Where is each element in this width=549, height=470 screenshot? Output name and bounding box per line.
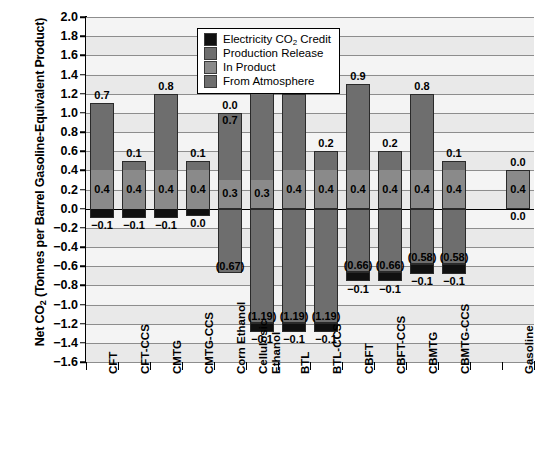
production-release-label: 0.1 <box>126 147 141 159</box>
y-tick-label: 0.4 <box>8 163 78 177</box>
electricity-credit-label: 0.0 <box>510 210 525 222</box>
y-tick-label: 2.0 <box>8 10 78 24</box>
y-tick-label: 0.0 <box>8 202 78 216</box>
legend: Electricity CO2 CreditProduction Release… <box>197 28 340 94</box>
bar-cft[interactable] <box>90 103 114 218</box>
production-release-label: 0.8 <box>414 80 429 92</box>
y-tick-label: 0.2 <box>8 183 78 197</box>
y-tick-mark <box>80 131 86 133</box>
y-tick-label: 1.4 <box>8 68 78 82</box>
in-product-label: 0.4 <box>94 183 109 195</box>
legend-item-0[interactable]: Electricity CO2 Credit <box>204 33 331 46</box>
legend-item-2[interactable]: In Product <box>204 61 331 74</box>
bar-cbft-ccs[interactable] <box>378 151 402 209</box>
y-tick-label: 1.6 <box>8 48 78 62</box>
x-tick-label: BTL-CCS <box>331 324 343 374</box>
segment-electricity-credit <box>442 264 466 274</box>
y-tick-label: 0.8 <box>8 125 78 139</box>
bar-btl-ccs[interactable] <box>314 151 338 209</box>
production-release-label: 0.0 <box>222 99 237 111</box>
x-tick-label: CFT-CCS <box>139 324 151 374</box>
legend-label-suffix: Credit <box>297 33 331 45</box>
legend-item-1[interactable]: Production Release <box>204 47 331 60</box>
atmosphere-value-label: (1.19) <box>280 310 309 322</box>
segment-electricity-credit <box>346 272 370 282</box>
in-product-label: 0.4 <box>126 183 141 195</box>
in-product-label: 0.4 <box>350 183 365 195</box>
x-tick-mark <box>502 362 503 370</box>
y-tick-mark <box>80 227 86 229</box>
in-product-label: 0.4 <box>318 183 333 195</box>
production-release-label: 0.9 <box>350 70 365 82</box>
electricity-credit-label: −0.1 <box>155 219 177 231</box>
x-tick-label: Corn Ethanol <box>235 302 247 374</box>
production-release-label: 0.2 <box>382 137 397 149</box>
legend-swatch-icon <box>204 75 217 88</box>
y-tick-label: −1.6 <box>8 355 78 369</box>
legend-swatch-icon <box>204 61 217 74</box>
bar-atmosphere-btl-ccs[interactable] <box>314 209 338 323</box>
production-release-label: 0.7 <box>94 89 109 101</box>
y-tick-label: −1.4 <box>8 336 78 350</box>
bar-outline <box>250 209 274 323</box>
y-tick-mark <box>80 150 86 152</box>
atmosphere-value-label: (1.19) <box>312 310 341 322</box>
in-product-label: 0.4 <box>414 183 429 195</box>
x-tick-label: Gasoline <box>523 325 535 374</box>
x-tick-label: CFT <box>107 352 119 374</box>
bar-atmosphere-cellulosic-ethanol[interactable] <box>250 209 274 323</box>
x-tick-label: CMTG-CCS <box>203 312 215 374</box>
x-tick-label: CBFT-CCS <box>395 316 407 374</box>
chart-root: Net CO2 (Tonnes per Barrel Gasoline-Equi… <box>0 0 549 470</box>
y-tick-mark <box>80 16 86 18</box>
y-tick-label: −1.0 <box>8 298 78 312</box>
y-tick-mark <box>80 246 86 248</box>
y-tick-mark <box>80 265 86 267</box>
production-release-label: 0.8 <box>158 80 173 92</box>
y-tick-label: −0.6 <box>8 259 78 273</box>
y-tick-label: −0.2 <box>8 221 78 235</box>
production-release-label: 0.1 <box>190 147 205 159</box>
bar-outline <box>314 151 338 209</box>
atmosphere-value-label: (0.58) <box>440 251 469 263</box>
legend-item-3[interactable]: From Atmosphere <box>204 75 331 88</box>
segment-electricity-credit <box>410 264 434 274</box>
segment-electricity-credit <box>378 272 402 282</box>
y-tick-mark <box>80 35 86 37</box>
segment-electricity-credit <box>282 323 306 333</box>
in-product-label: 0.4 <box>510 183 525 195</box>
legend-label: Electricity CO2 Credit <box>223 33 331 47</box>
y-tick-mark <box>80 208 86 210</box>
y-tick-label: 1.2 <box>8 87 78 101</box>
atmosphere-value-label: (0.58) <box>408 251 437 263</box>
x-tick-label: CellulosicEthanol <box>257 320 282 374</box>
y-tick-mark <box>80 112 86 114</box>
x-tick-label: CMTG <box>171 340 183 374</box>
y-tick-mark <box>80 55 86 57</box>
y-tick-mark <box>80 342 86 344</box>
electricity-credit-label: −0.1 <box>91 219 113 231</box>
y-tick-label: 1.0 <box>8 106 78 120</box>
electricity-credit-label: −0.1 <box>347 283 369 295</box>
atmosphere-value-label: (0.67) <box>216 260 245 272</box>
in-product-label: 0.3 <box>222 187 237 199</box>
y-tick-label: −0.8 <box>8 278 78 292</box>
atmosphere-value-label: (0.66) <box>344 259 373 271</box>
in-product-label: 0.3 <box>254 187 269 199</box>
legend-label-subscript: 2 <box>293 38 297 47</box>
y-tick-label: −0.4 <box>8 240 78 254</box>
bar-atmosphere-btl[interactable] <box>282 209 306 323</box>
production-release-label: 0.1 <box>446 147 461 159</box>
bar-outline <box>154 94 178 219</box>
legend-swatch-icon <box>204 33 217 46</box>
bar-outline <box>314 209 338 323</box>
y-tick-mark <box>80 304 86 306</box>
y-tick-label: 0.6 <box>8 144 78 158</box>
bar-cmtg[interactable] <box>154 94 178 219</box>
legend-label: In Product <box>223 61 275 74</box>
electricity-credit-label: −0.1 <box>379 283 401 295</box>
x-tick-label: CBMTG-CCS <box>459 304 471 374</box>
in-product-label: 0.4 <box>382 183 397 195</box>
electricity-credit-label: −0.1 <box>283 333 305 345</box>
legend-swatch-icon <box>204 47 217 60</box>
